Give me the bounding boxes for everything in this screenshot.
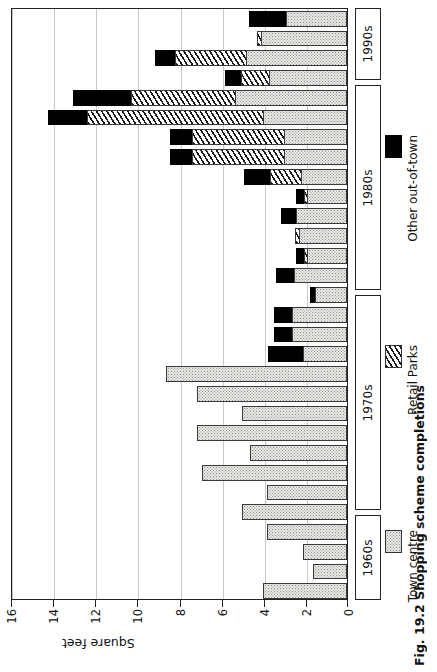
- bar-row: [12, 504, 347, 520]
- bar-segment-town: [292, 327, 347, 343]
- bar-segment-retail: [270, 169, 302, 185]
- bar-segment-town: [299, 228, 347, 244]
- decade-label: 1960s: [361, 539, 375, 576]
- bar-segment-town: [294, 268, 347, 284]
- axis-tick: [347, 600, 348, 607]
- decade-label: 1990s: [361, 26, 375, 63]
- bar-segment-town: [307, 189, 347, 205]
- bar-row: [12, 425, 347, 441]
- bar-row: [12, 208, 347, 224]
- bar-row: [12, 327, 347, 343]
- axis-tick: [53, 600, 54, 607]
- bar-row: [12, 544, 347, 560]
- bar-row: [12, 268, 347, 284]
- axis-tick: [306, 600, 307, 607]
- chart-plot-area: [11, 8, 348, 600]
- bar-row: [12, 189, 347, 205]
- bar-row: [12, 287, 347, 303]
- bar-row: [12, 11, 347, 27]
- bar-segment-town: [166, 366, 347, 382]
- axis-tick-label: 14: [47, 609, 61, 624]
- bar-segment-town: [235, 90, 347, 106]
- axis-tick-label: 4: [258, 609, 272, 616]
- legend-swatch-retail: [385, 345, 402, 368]
- legend-item-other: Other out-of-town: [386, 135, 426, 255]
- bar-row: [12, 465, 347, 481]
- bar-row: [12, 564, 347, 580]
- axis-tick: [180, 600, 181, 607]
- bar-segment-town: [242, 406, 347, 422]
- bar-segment-retail: [131, 90, 236, 106]
- bar-row: [12, 248, 347, 264]
- bar-row: [12, 228, 347, 244]
- axis-title: Square feet: [62, 636, 135, 651]
- bar-segment-town: [263, 583, 347, 599]
- legend-swatch-other: [385, 135, 402, 158]
- figure-caption: Fig. 19.2 Shopping scheme completions: [412, 385, 427, 666]
- decade-bracket-1990s: 1990s: [355, 8, 381, 80]
- decade-bracket-1970s: 1970s: [355, 295, 381, 510]
- bar-segment-other: [225, 70, 242, 86]
- axis-tick-label: 0: [342, 609, 356, 616]
- bar-row: [12, 346, 347, 362]
- legend-label-other: Other out-of-town: [406, 135, 420, 242]
- bar-row: [12, 583, 347, 599]
- bar-segment-town: [246, 50, 347, 66]
- bar-segment-town: [269, 70, 347, 86]
- bar-segment-town: [286, 11, 347, 27]
- bar-segment-town: [284, 149, 347, 165]
- axis-tick-label: 16: [5, 609, 19, 624]
- bar-segment-other: [268, 346, 304, 362]
- bar-row: [12, 307, 347, 323]
- axis-tick: [95, 600, 96, 607]
- bar-segment-town: [301, 169, 347, 185]
- bar-segment-other: [73, 90, 132, 106]
- bar-segment-other: [244, 169, 271, 185]
- axis-tick: [11, 600, 12, 607]
- bar-segment-retail: [175, 50, 247, 66]
- bar-row: [12, 485, 347, 501]
- bar-row: [12, 110, 347, 126]
- decade-label: 1970s: [361, 384, 375, 421]
- bar-segment-town: [284, 129, 347, 145]
- axis-tick: [264, 600, 265, 607]
- decade-label: 1980s: [361, 169, 375, 206]
- bar-row: [12, 149, 347, 165]
- bar-segment-other: [281, 208, 298, 224]
- bar-segment-other: [48, 110, 88, 126]
- axis-tick: [137, 600, 138, 607]
- bar-segment-retail: [87, 110, 264, 126]
- bar-segment-town: [315, 287, 347, 303]
- value-axis: 0246810121416: [11, 600, 348, 634]
- axis-tick-label: 10: [131, 609, 145, 624]
- bar-segment-town: [307, 248, 347, 264]
- bar-segment-town: [267, 524, 347, 540]
- bar-segment-other: [274, 327, 293, 343]
- axis-tick-label: 8: [174, 609, 188, 616]
- bar-segment-town: [202, 465, 347, 481]
- bar-segment-town: [267, 485, 347, 501]
- legend-swatch-town: [385, 530, 402, 553]
- bar-segment-town: [197, 425, 347, 441]
- bar-row: [12, 50, 347, 66]
- bar-segment-town: [261, 31, 347, 47]
- bar-segment-retail: [241, 70, 270, 86]
- bar-row: [12, 406, 347, 422]
- bar-row: [12, 524, 347, 540]
- bar-segment-town: [303, 544, 347, 560]
- bar-segment-town: [263, 110, 347, 126]
- bar-row: [12, 90, 347, 106]
- bar-row: [12, 31, 347, 47]
- axis-tick: [222, 600, 223, 607]
- bar-row: [12, 386, 347, 402]
- bar-segment-town: [296, 208, 347, 224]
- bar-segment-town: [197, 386, 347, 402]
- decade-bracket-1960s: 1960s: [355, 515, 381, 600]
- bar-segment-other: [170, 149, 193, 165]
- axis-tick-label: 12: [89, 609, 103, 624]
- bar-segment-town: [313, 564, 347, 580]
- bar-row: [12, 169, 347, 185]
- bar-segment-town: [303, 346, 347, 362]
- decade-bracket-1980s: 1980s: [355, 85, 381, 290]
- axis-tick-label: 2: [300, 609, 314, 616]
